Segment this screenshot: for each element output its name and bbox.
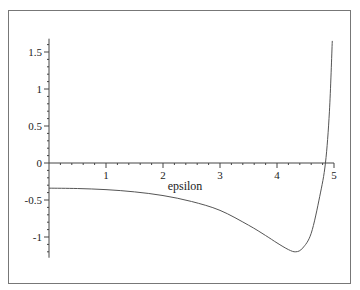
y-tick-label: 0.5 xyxy=(28,120,42,132)
y-tick-label: 0 xyxy=(37,157,43,169)
line-chart: 123451.510.50-0.5-1 epsilon xyxy=(0,0,360,290)
x-tick-label: 2 xyxy=(160,169,166,181)
y-tick-label: 1.5 xyxy=(28,46,42,58)
x-tick-label: 5 xyxy=(331,169,337,181)
x-tick-label: 4 xyxy=(274,169,280,181)
data-curve xyxy=(49,41,332,252)
x-tick-label: 3 xyxy=(217,169,223,181)
x-tick-label: 1 xyxy=(103,169,109,181)
y-tick-label: 1 xyxy=(37,83,43,95)
y-tick-label: -1 xyxy=(33,231,42,243)
ticks: 123451.510.50-0.5-1 xyxy=(25,45,338,252)
axes xyxy=(49,39,334,258)
x-axis-label: epsilon xyxy=(168,179,203,193)
y-tick-label: -0.5 xyxy=(25,194,43,206)
